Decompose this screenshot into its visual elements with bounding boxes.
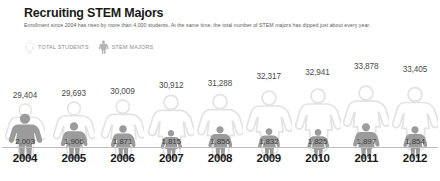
total-students-value: 32,317 (257, 72, 281, 82)
stem-values-row: 2,0031,9061,8711,8151,8561,8321,8251,897… (0, 137, 440, 146)
year-label: 2004 (2, 152, 48, 164)
pictogram-pair (197, 90, 243, 159)
stem-majors-value: 1,871 (100, 137, 146, 146)
stem-majors-value: 1,856 (197, 137, 243, 146)
total-students-value: 32,941 (305, 68, 329, 78)
year-label: 2006 (100, 152, 146, 164)
total-students-value: 31,288 (208, 79, 232, 89)
total-students-value: 30,009 (110, 87, 134, 97)
pictogram-pair (100, 98, 146, 159)
header: Recruiting STEM Majors Enrollment since … (24, 6, 434, 29)
year-label: 2012 (392, 152, 438, 164)
page-subtitle: Enrollment since 2004 has risen by more … (24, 21, 434, 29)
axis-line (2, 147, 438, 148)
year-label: 2007 (148, 152, 194, 164)
year-label: 2008 (197, 152, 243, 164)
total-students-value: 33,405 (403, 65, 427, 75)
pictogram-pair (148, 92, 194, 159)
year-labels-row: 200420052006200720082009201020112012 (0, 152, 440, 164)
stem-majors-value: 2,003 (2, 137, 48, 146)
pictogram-pair (51, 100, 97, 159)
year-label: 2005 (51, 152, 97, 164)
stem-majors-value: 1,906 (51, 137, 97, 146)
stem-majors-value: 1,815 (148, 137, 194, 146)
stem-majors-value: 1,897 (343, 137, 389, 146)
total-students-value: 29,404 (13, 91, 37, 101)
page-title: Recruiting STEM Majors (24, 6, 434, 20)
stem-majors-value: 1,832 (246, 137, 292, 146)
year-label: 2011 (343, 152, 389, 164)
total-students-value: 30,912 (159, 81, 183, 91)
year-label: 2010 (295, 152, 341, 164)
pictogram-pair (2, 102, 48, 159)
stem-majors-value: 1,854 (392, 137, 438, 146)
stem-majors-value: 1,825 (295, 137, 341, 146)
total-students-value: 33,878 (354, 62, 378, 72)
year-label: 2009 (246, 152, 292, 164)
infographic-root: Recruiting STEM Majors Enrollment since … (0, 0, 440, 181)
total-students-value: 29,693 (62, 89, 86, 99)
